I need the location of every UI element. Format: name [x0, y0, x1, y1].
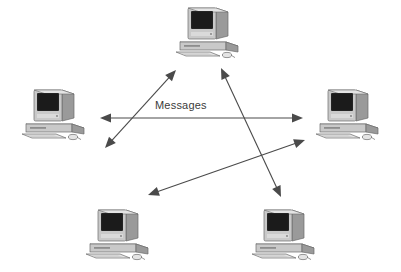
computer-left [16, 84, 92, 142]
computer-bottom-left [80, 204, 156, 262]
computer-top [170, 2, 246, 60]
diagram-canvas: Messages [0, 0, 401, 272]
arrow-left-to-right [100, 113, 303, 122]
computer-bottom-right [246, 204, 322, 262]
computer-right [310, 84, 386, 142]
messages-label: Messages [155, 99, 207, 111]
arrow-top-to-bottom-right [221, 68, 281, 197]
arrow-right-to-bottom-left [148, 139, 305, 195]
